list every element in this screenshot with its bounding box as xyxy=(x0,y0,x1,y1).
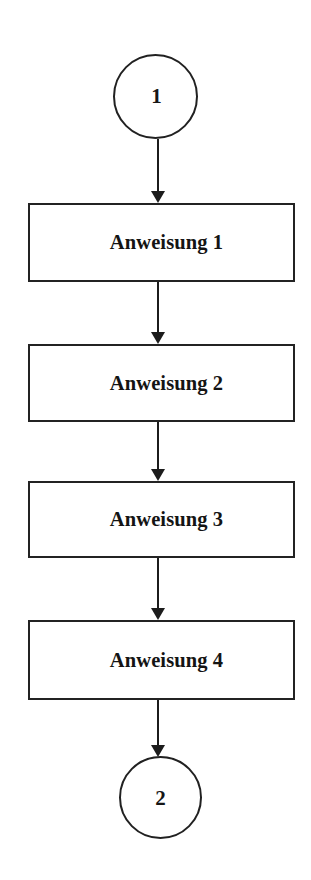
flowchart-node-step3: Anweisung 3 xyxy=(28,481,295,558)
connector-line xyxy=(157,558,159,608)
node-label-end: 2 xyxy=(155,788,166,809)
node-label-step4: Anweisung 4 xyxy=(110,650,223,671)
down-arrow-icon xyxy=(151,332,165,344)
node-label-step2: Anweisung 2 xyxy=(110,373,223,394)
node-label-step3: Anweisung 3 xyxy=(110,509,223,530)
connector-start-to-step1 xyxy=(151,139,165,203)
connector-step1-to-step2 xyxy=(151,282,165,344)
down-arrow-icon xyxy=(151,191,165,203)
down-arrow-icon xyxy=(151,469,165,481)
connector-line xyxy=(157,422,159,469)
flowchart-node-step1: Anweisung 1 xyxy=(28,203,295,282)
connector-step4-to-end xyxy=(151,700,165,757)
connector-line xyxy=(157,282,159,332)
node-label-start: 1 xyxy=(151,86,162,107)
connector-line xyxy=(157,139,159,191)
flowchart-node-start-connector: 1 xyxy=(113,54,198,139)
flowchart-node-step4: Anweisung 4 xyxy=(28,620,295,700)
flowchart-diagram: 1 Anweisung 1 Anweisung 2 Anweisung 3 An… xyxy=(0,0,311,880)
flowchart-node-end-connector: 2 xyxy=(119,756,202,839)
down-arrow-icon xyxy=(151,608,165,620)
connector-step2-to-step3 xyxy=(151,422,165,481)
connector-line xyxy=(157,700,159,745)
node-label-step1: Anweisung 1 xyxy=(110,232,223,253)
flowchart-node-step2: Anweisung 2 xyxy=(28,344,295,422)
connector-step3-to-step4 xyxy=(151,558,165,620)
